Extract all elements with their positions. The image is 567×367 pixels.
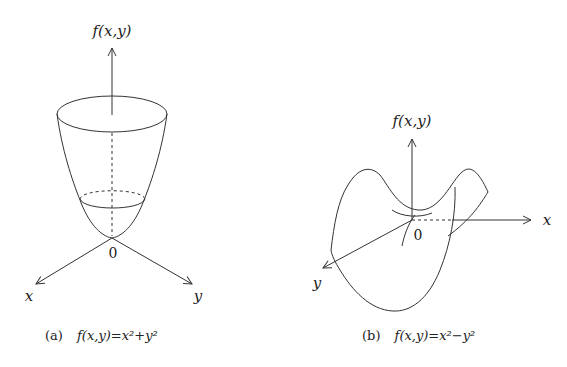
figure-b-saddle: f(x,y) 0 x y (b) f(x,y)=x²−y² <box>312 112 552 343</box>
x-axis-b-label: x <box>543 211 552 229</box>
saddle-back-edge <box>331 169 488 250</box>
y-axis-a <box>112 238 192 284</box>
figure-a-paraboloid: f(x,y) 0 x y (a) f(x,y)=x²+y² <box>25 22 203 343</box>
origin-label-a: 0 <box>109 245 118 261</box>
f-axis-b-label: f(x,y) <box>392 112 432 130</box>
y-axis-a-label: y <box>193 287 203 305</box>
figure-canvas: f(x,y) 0 x y (a) f(x,y)=x²+y² f(x,y) <box>0 0 567 367</box>
caption-b-formula: f(x,y)=x²−y² <box>394 328 476 343</box>
caption-a-formula: f(x,y)=x²+y² <box>76 328 158 343</box>
caption-b-tag: (b) <box>362 328 380 343</box>
caption-b: (b) f(x,y)=x²−y² <box>362 328 475 343</box>
y-axis-b-label: y <box>312 274 322 292</box>
y-axis-b <box>323 220 412 268</box>
x-axis-a-label: x <box>25 287 34 305</box>
origin-label-b: 0 <box>414 227 423 243</box>
x-axis-a <box>36 238 112 284</box>
saddle-front-right-curve <box>331 187 455 311</box>
f-axis-a-label: f(x,y) <box>92 22 132 40</box>
caption-a-tag: (a) <box>45 328 63 343</box>
caption-a: (a) f(x,y)=x²+y² <box>45 328 158 343</box>
